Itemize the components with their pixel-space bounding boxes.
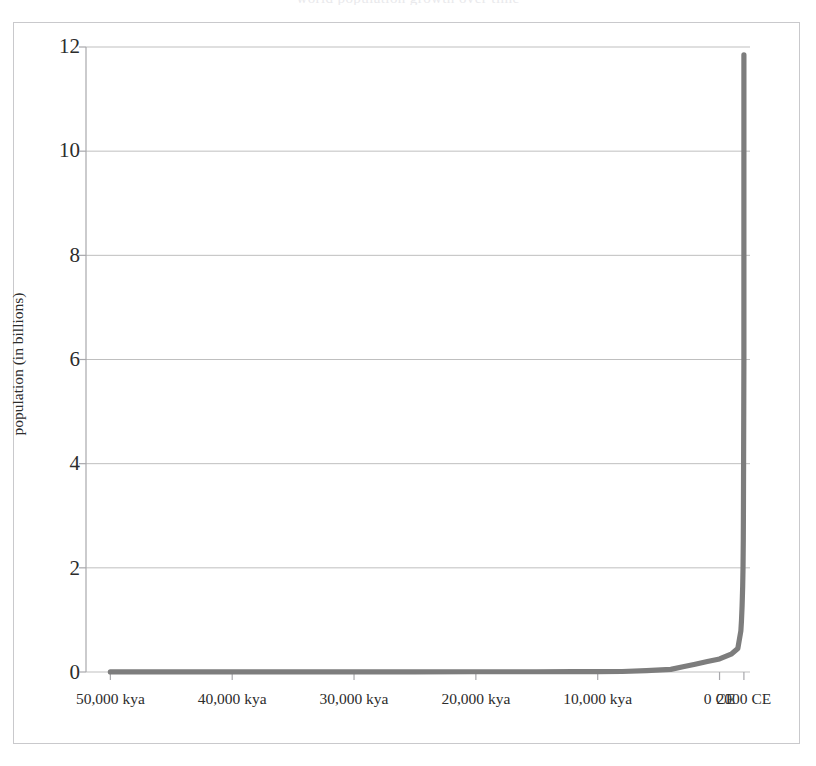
population-line [110,55,744,672]
chart-figure: world population growth over time 12 10 … [0,0,816,766]
chart-canvas [0,0,816,766]
gridlines [79,47,750,672]
